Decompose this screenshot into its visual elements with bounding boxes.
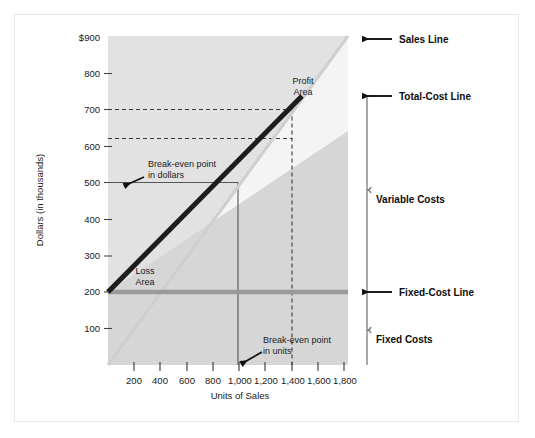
- x-tick-800: 800: [205, 375, 221, 386]
- legend-label-fixed-cost-line: Fixed-Cost Line: [399, 287, 474, 298]
- x-tick-1600: 1,600: [307, 375, 331, 386]
- y-tick-200: 200: [84, 286, 100, 297]
- chart-page: $900 800 700 600 500 400 300 200 100: [0, 0, 535, 438]
- legend-sales-line: Sales Line: [362, 34, 449, 45]
- be-dollars-l1: Break-even point: [148, 159, 217, 169]
- y-tick-600: 600: [84, 141, 100, 152]
- x-axis-labels: 200 400 600 800 1,000 1,200 1,400 1,600 …: [126, 375, 357, 386]
- profit-area-label-l1: Profit: [292, 76, 314, 86]
- legend-label-fixed-costs: Fixed Costs: [376, 334, 433, 345]
- x-tick-1400: 1,400: [281, 375, 305, 386]
- y-tick-800: 800: [84, 68, 100, 79]
- profit-area-label-l2: Area: [293, 87, 312, 97]
- loss-area-label-l1: Loss: [135, 266, 155, 276]
- y-axis-title: Dollars (in thousands): [34, 154, 45, 246]
- be-units-l2: in units: [263, 346, 292, 356]
- be-units-l1: Break-even point: [263, 335, 332, 345]
- y-axis: $900 800 700 600 500 400 300 200 100: [79, 32, 112, 334]
- legend-total-cost-line: Total-Cost Line: [362, 91, 471, 102]
- y-tick-300: 300: [84, 250, 100, 261]
- legend-fixed-cost-line: Fixed-Cost Line: [362, 287, 474, 298]
- x-tick-1000: 1,000: [228, 375, 252, 386]
- y-tick-400: 400: [84, 214, 100, 225]
- x-axis-title: Units of Sales: [211, 390, 270, 401]
- x-tick-200: 200: [126, 375, 142, 386]
- y-tick-700: 700: [84, 104, 100, 115]
- y-tick-100: 100: [84, 323, 100, 334]
- chart-stage: $900 800 700 600 500 400 300 200 100: [0, 0, 535, 438]
- legend-fixed-costs: Fixed Costs: [367, 293, 433, 365]
- be-dollars-l2: in dollars: [148, 170, 185, 180]
- legend-label-variable-costs: Variable Costs: [376, 194, 445, 205]
- x-tick-400: 400: [152, 375, 168, 386]
- y-tick-500: 500: [84, 177, 100, 188]
- profit-area-label: Profit Area: [292, 76, 314, 97]
- x-tick-1200: 1,200: [254, 375, 278, 386]
- legend-variable-costs: Variable Costs: [367, 97, 445, 291]
- y-tick-900: $900: [79, 32, 100, 43]
- loss-area-label: Loss Area: [135, 266, 155, 287]
- break-even-chart: $900 800 700 600 500 400 300 200 100: [0, 0, 535, 438]
- legend-label-sales-line: Sales Line: [399, 34, 449, 45]
- x-tick-600: 600: [179, 375, 195, 386]
- loss-area-label-l2: Area: [135, 277, 154, 287]
- x-tick-1800: 1,800: [333, 375, 357, 386]
- legend-label-total-cost-line: Total-Cost Line: [399, 91, 471, 102]
